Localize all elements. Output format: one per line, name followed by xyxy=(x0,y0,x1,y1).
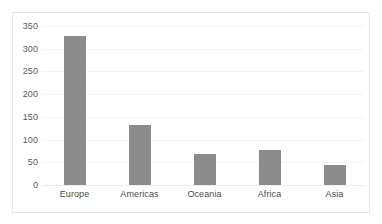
bar-europe[interactable] xyxy=(64,36,86,185)
x-axis-label-africa: Africa xyxy=(237,189,302,199)
x-axis-label-oceania: Oceania xyxy=(172,189,237,199)
gridline xyxy=(42,185,365,186)
bar-africa[interactable] xyxy=(259,150,281,185)
y-axis-tick-label: 150 xyxy=(13,113,38,122)
y-axis-tick-label: 50 xyxy=(13,158,38,167)
gridline xyxy=(42,140,365,141)
chart-title xyxy=(0,0,1,1)
gridline xyxy=(42,117,365,118)
chart-plot-frame: 050100150200250300350 EuropeAmericasOcea… xyxy=(12,12,370,213)
x-axis-label-americas: Americas xyxy=(107,189,172,199)
bar-oceania[interactable] xyxy=(194,154,216,185)
y-axis-tick-label: 250 xyxy=(13,67,38,76)
chart-plot-area: 050100150200250300350 EuropeAmericasOcea… xyxy=(13,13,369,212)
x-axis-label-europe: Europe xyxy=(42,189,107,199)
y-axis-tick-label: 300 xyxy=(13,45,38,54)
y-axis-tick-label: 350 xyxy=(13,22,38,31)
gridline xyxy=(42,26,365,27)
bar-chart-figure: 050100150200250300350 EuropeAmericasOcea… xyxy=(0,0,382,224)
x-axis-label-asia: Asia xyxy=(302,189,367,199)
y-axis-tick-label: 100 xyxy=(13,136,38,145)
gridline xyxy=(42,49,365,50)
gridline xyxy=(42,71,365,72)
bar-asia[interactable] xyxy=(324,165,346,185)
y-axis-tick-label: 0 xyxy=(13,181,38,190)
y-axis-tick-label: 200 xyxy=(13,90,38,99)
bar-americas[interactable] xyxy=(129,125,151,185)
gridline xyxy=(42,94,365,95)
